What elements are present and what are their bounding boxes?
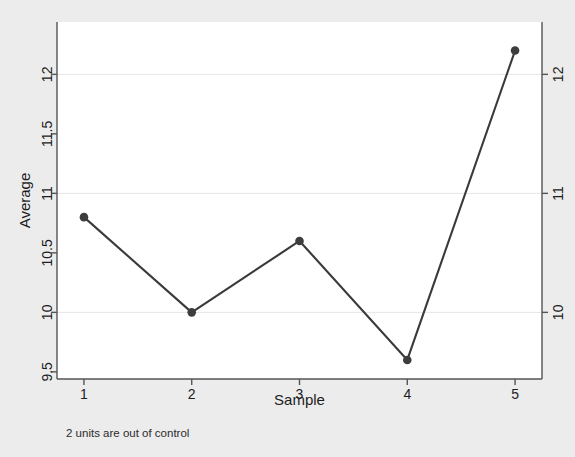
data-point xyxy=(187,308,196,317)
data-point xyxy=(403,356,412,365)
x-tick-label: 4 xyxy=(403,386,411,402)
y-tick-label-left: 10 xyxy=(39,304,55,320)
x-tick-label: 5 xyxy=(511,386,519,402)
y-tick-label-left: 12 xyxy=(39,66,55,82)
data-point xyxy=(295,237,304,246)
data-point xyxy=(511,46,520,55)
y-tick-label-left: 11 xyxy=(39,186,55,201)
chart-figure: 9.51010.51111.512 101112 12345 Sample Av… xyxy=(0,0,575,457)
y-tick-label-left: 11.5 xyxy=(39,121,55,147)
y-tick-label-left: 9.5 xyxy=(39,362,55,382)
y-tick-label-right: 10 xyxy=(550,304,566,320)
plot-panel-background xyxy=(57,22,542,379)
y-tick-label-right: 11 xyxy=(550,186,566,201)
data-point xyxy=(80,213,89,222)
chart-annotation: 2 units are out of control xyxy=(66,427,189,439)
x-tick-label: 1 xyxy=(80,386,88,402)
y-tick-label-left: 10.5 xyxy=(39,239,55,266)
x-axis-title: Sample xyxy=(274,391,325,408)
line-chart: 9.51010.51111.512 101112 12345 Sample Av… xyxy=(0,0,575,457)
y-tick-label-right: 12 xyxy=(550,66,566,82)
y-axis-title: Average xyxy=(16,173,33,229)
x-tick-label: 2 xyxy=(188,386,196,402)
